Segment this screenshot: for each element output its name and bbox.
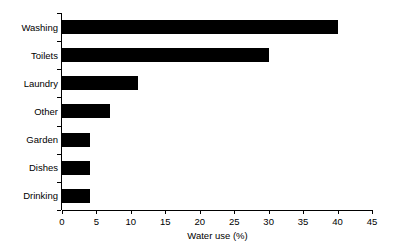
x-axis-tick xyxy=(200,210,201,214)
x-axis-tick xyxy=(372,210,373,214)
bar xyxy=(62,189,90,203)
x-axis-tick xyxy=(269,210,270,214)
category-label: Other xyxy=(0,106,58,117)
category-label: Washing xyxy=(0,22,58,33)
category-label: Drinking xyxy=(0,190,58,201)
bar-chart: WashingToiletsLaundryOtherGardenDishesDr… xyxy=(0,0,400,247)
x-axis-tick xyxy=(165,210,166,214)
category-label-group: WashingToiletsLaundryOtherGardenDishesDr… xyxy=(0,13,58,210)
bar xyxy=(62,161,90,175)
category-label: Toilets xyxy=(0,50,58,61)
x-axis-tick xyxy=(338,210,339,214)
category-label: Dishes xyxy=(0,162,58,173)
plot-area xyxy=(62,13,372,210)
category-label: Garden xyxy=(0,134,58,145)
y-axis-tick xyxy=(57,210,61,211)
x-axis-tick-label: 10 xyxy=(119,216,143,227)
x-axis-tick xyxy=(303,210,304,214)
x-axis-tick-label: 20 xyxy=(188,216,212,227)
x-axis-tick-label: 40 xyxy=(326,216,350,227)
bar xyxy=(62,133,90,147)
x-axis-tick-label: 5 xyxy=(84,216,108,227)
x-axis-tick xyxy=(131,210,132,214)
x-axis-tick-label: 35 xyxy=(291,216,315,227)
x-axis-tick xyxy=(62,210,63,214)
bar xyxy=(62,48,269,62)
bar xyxy=(62,20,338,34)
x-axis-line xyxy=(62,210,373,211)
x-axis-tick-label: 0 xyxy=(50,216,74,227)
x-axis-tick-label: 15 xyxy=(153,216,177,227)
x-axis-tick xyxy=(234,210,235,214)
x-axis-tick-label: 30 xyxy=(257,216,281,227)
bar xyxy=(62,76,138,90)
x-axis-tick-label: 45 xyxy=(360,216,384,227)
bar xyxy=(62,104,110,118)
x-axis-tick xyxy=(96,210,97,214)
x-axis-tick-label: 25 xyxy=(222,216,246,227)
x-axis-title: Water use (%) xyxy=(62,230,373,241)
category-label: Laundry xyxy=(0,78,58,89)
